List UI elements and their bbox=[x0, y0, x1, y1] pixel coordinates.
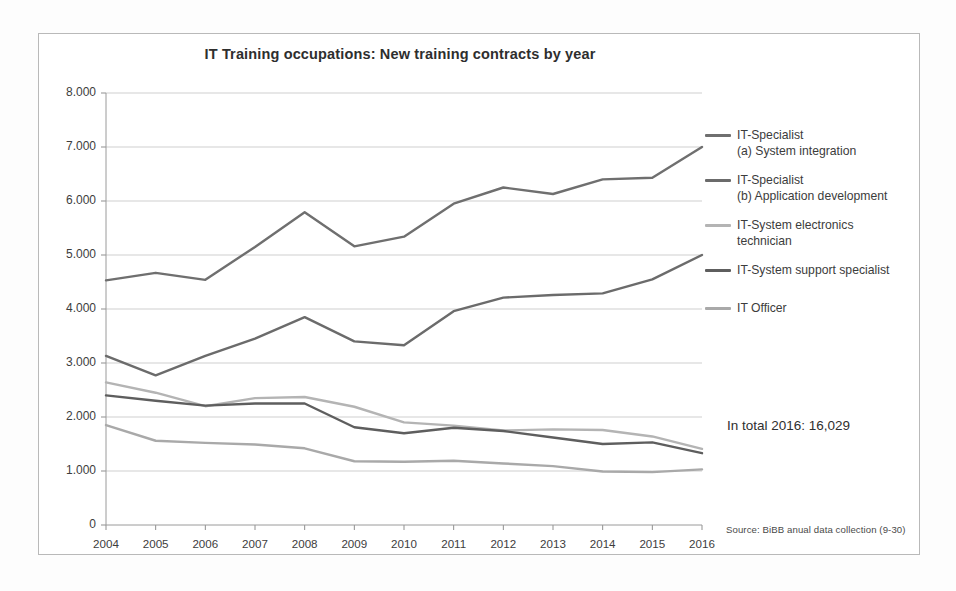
y-tick-label: 4.000 bbox=[38, 301, 96, 315]
x-tick-label: 2011 bbox=[431, 537, 477, 550]
chart-title: IT Training occupations: New training co… bbox=[100, 46, 700, 62]
x-tick-label: 2005 bbox=[133, 537, 179, 550]
legend-label: IT-System electronics bbox=[737, 218, 854, 232]
legend-color-swatch bbox=[705, 134, 731, 137]
y-axis-ticks bbox=[101, 93, 106, 525]
source-annotation: Source: BiBB anual data collection (9-30… bbox=[726, 524, 906, 535]
y-tick-label: 7.000 bbox=[38, 139, 96, 153]
gridlines bbox=[106, 93, 702, 471]
x-tick-label: 2009 bbox=[331, 537, 377, 550]
legend-item[interactable]: IT Officer bbox=[705, 301, 920, 317]
series-line bbox=[106, 382, 702, 448]
legend-item[interactable]: IT-Specialist(b) Application development bbox=[705, 173, 920, 204]
line-chart-svg bbox=[40, 80, 720, 550]
total-annotation: In total 2016: 16,029 bbox=[727, 418, 850, 433]
legend-color-swatch bbox=[705, 224, 731, 227]
y-tick-label: 5.000 bbox=[38, 247, 96, 261]
legend-color-swatch bbox=[705, 269, 731, 272]
x-tick-label: 2013 bbox=[530, 537, 576, 550]
y-tick-label: 3.000 bbox=[38, 355, 96, 369]
x-tick-label: 2004 bbox=[83, 537, 129, 550]
series-line bbox=[106, 147, 702, 280]
chart-legend: IT-Specialist(a) System integrationIT-Sp… bbox=[705, 128, 920, 330]
x-tick-label: 2014 bbox=[580, 537, 626, 550]
series-line bbox=[106, 255, 702, 375]
y-tick-label: 6.000 bbox=[38, 193, 96, 207]
plot-area: 01.0002.0003.0004.0005.0006.0007.0008.00… bbox=[40, 80, 720, 550]
legend-label: IT-System support specialist bbox=[737, 263, 889, 277]
legend-label: IT-Specialist bbox=[737, 173, 803, 187]
legend-item[interactable]: IT-Specialist(a) System integration bbox=[705, 128, 920, 159]
x-axis-ticks bbox=[106, 525, 702, 530]
legend-color-swatch bbox=[705, 179, 731, 182]
y-tick-label: 0 bbox=[38, 517, 96, 531]
legend-item[interactable]: IT-System support specialist bbox=[705, 263, 920, 279]
x-tick-label: 2006 bbox=[182, 537, 228, 550]
x-tick-label: 2010 bbox=[381, 537, 427, 550]
legend-label: IT Officer bbox=[737, 301, 787, 315]
legend-label: IT-Specialist bbox=[737, 128, 803, 142]
legend-color-swatch bbox=[705, 307, 731, 310]
series-line bbox=[106, 395, 702, 453]
y-tick-label: 8.000 bbox=[38, 85, 96, 99]
legend-label-line2: (b) Application development bbox=[737, 189, 920, 205]
chart-figure: IT Training occupations: New training co… bbox=[0, 0, 956, 591]
legend-label-line2: technician bbox=[737, 234, 920, 250]
legend-item[interactable]: IT-System electronicstechnician bbox=[705, 218, 920, 249]
legend-label-line2: (a) System integration bbox=[737, 144, 920, 160]
x-tick-label: 2015 bbox=[629, 537, 675, 550]
data-series-group bbox=[106, 147, 702, 472]
y-tick-label: 1.000 bbox=[38, 463, 96, 477]
x-tick-label: 2016 bbox=[679, 537, 725, 550]
x-tick-label: 2008 bbox=[282, 537, 328, 550]
y-tick-label: 2.000 bbox=[38, 409, 96, 423]
x-tick-label: 2012 bbox=[480, 537, 526, 550]
x-tick-label: 2007 bbox=[232, 537, 278, 550]
